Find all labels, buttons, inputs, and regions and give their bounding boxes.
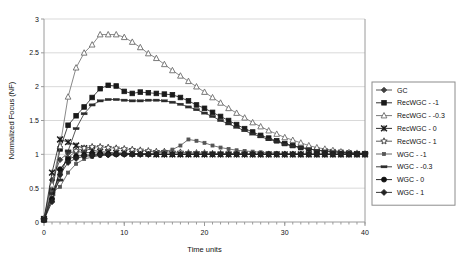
dash-marker	[177, 103, 183, 105]
series-marker	[90, 95, 95, 100]
legend-item-2[interactable]: RecWGC - -1	[376, 99, 439, 106]
dash-marker	[298, 146, 304, 148]
line-chart: 00.511.522.53010203040Time unitsNormaliz…	[0, 0, 461, 278]
series-marker	[266, 128, 272, 133]
series-marker	[210, 115, 216, 117]
triangle-marker	[186, 78, 192, 83]
series-marker	[138, 90, 143, 95]
y-tick-label: 3	[35, 16, 39, 23]
triangle-marker	[258, 123, 264, 128]
series-marker	[49, 170, 55, 176]
series-marker	[121, 146, 127, 152]
series-marker	[121, 99, 127, 101]
series-marker	[145, 99, 151, 101]
series-marker	[227, 147, 230, 150]
dash-marker	[242, 130, 248, 132]
series-marker	[242, 115, 248, 120]
series-marker	[146, 90, 151, 95]
triangle-marker	[73, 65, 79, 70]
series-marker	[202, 89, 208, 94]
triangle-marker	[266, 128, 272, 133]
dash-marker	[89, 104, 95, 106]
dash-marker	[73, 128, 79, 130]
square-marker	[114, 84, 119, 89]
square-marker	[146, 90, 151, 95]
series-marker	[282, 143, 288, 145]
dash-marker	[121, 99, 127, 101]
series-marker	[129, 39, 135, 44]
legend-item-8[interactable]: WGC - 0	[376, 176, 424, 183]
x-tick-label: 0	[42, 229, 46, 236]
square-marker	[218, 114, 223, 119]
series-wgc-0-3	[41, 98, 368, 220]
y-tick-label: 2	[35, 83, 39, 90]
dash-marker	[250, 133, 256, 135]
triangle-marker	[137, 44, 143, 49]
dash-marker	[258, 136, 264, 138]
dash-marker	[193, 109, 199, 111]
series-marker	[178, 95, 183, 100]
x-tick-label: 10	[120, 229, 128, 236]
dash-marker	[274, 140, 280, 142]
y-tick-label: 2.5	[29, 49, 39, 56]
dash-marker	[234, 126, 240, 128]
circle-marker	[382, 177, 387, 182]
triangle-marker	[274, 131, 280, 136]
series-line	[44, 152, 365, 219]
series-marker	[89, 143, 95, 149]
series-marker	[186, 99, 191, 104]
series-marker	[170, 67, 176, 72]
small-square-marker	[211, 144, 214, 147]
dash-marker	[129, 100, 135, 102]
series-marker	[242, 130, 248, 132]
dash-marker	[153, 99, 159, 101]
series-marker	[234, 110, 240, 115]
series-marker	[105, 98, 111, 100]
dash-marker	[161, 100, 167, 102]
small-square-marker	[227, 147, 230, 150]
series-marker	[202, 112, 208, 114]
series-marker	[170, 92, 175, 97]
dash-marker	[290, 145, 296, 147]
legend-item-9[interactable]: WGC - 1	[376, 189, 424, 196]
series-marker	[306, 148, 312, 150]
series-marker	[226, 123, 232, 125]
star-marker	[113, 145, 119, 151]
series-marker	[382, 177, 387, 182]
square-marker	[170, 92, 175, 97]
series-marker	[113, 145, 119, 151]
square-marker	[82, 105, 87, 110]
small-square-marker	[203, 141, 206, 144]
square-marker	[130, 91, 135, 96]
dash-marker	[169, 101, 175, 103]
triangle-marker	[178, 73, 184, 78]
series-marker	[66, 123, 71, 128]
dash-marker	[65, 150, 71, 152]
series-marker	[250, 133, 256, 135]
square-marker	[122, 89, 127, 94]
star-marker	[121, 146, 127, 152]
series-marker	[97, 143, 103, 149]
series-marker	[98, 86, 103, 91]
series-marker	[153, 55, 159, 60]
series-marker	[381, 166, 387, 168]
series-marker	[382, 101, 387, 106]
dash-marker	[81, 113, 87, 115]
series-marker	[219, 146, 222, 149]
x-tick-label: 40	[361, 229, 369, 236]
y-tick-label: 0.5	[29, 185, 39, 192]
dash-marker	[97, 100, 103, 102]
series-marker	[226, 118, 231, 123]
legend-label: RecWGC - 1	[397, 138, 437, 145]
series-line	[44, 154, 365, 220]
legend-label: RecWGC - -1	[397, 99, 439, 106]
series-gc	[41, 149, 368, 222]
small-square-marker	[187, 138, 190, 141]
series-marker	[210, 94, 216, 99]
triangle-marker	[162, 61, 168, 66]
plus-diamond-marker	[113, 151, 119, 157]
series-marker	[65, 94, 71, 99]
y-tick-label: 1.5	[29, 117, 39, 124]
triangle-marker	[202, 89, 208, 94]
series-marker	[258, 123, 264, 128]
